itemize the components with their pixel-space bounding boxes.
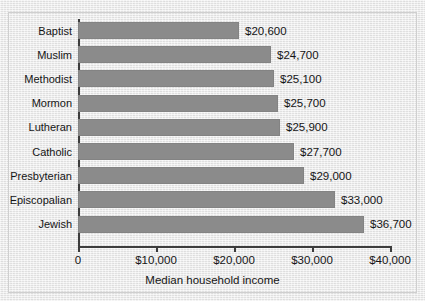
category-label: Catholic (32, 146, 72, 158)
bar-row: Episcopalian$33,000 (78, 191, 335, 208)
bar (78, 46, 271, 63)
x-axis-tick (312, 246, 314, 252)
chart-figure: Baptist$20,600Muslim$24,700Methodist$25,… (0, 0, 425, 301)
bar-value-label: $33,000 (341, 194, 383, 206)
bar-value-label: $24,700 (277, 49, 319, 61)
bar-row: Methodist$25,100 (78, 70, 274, 87)
x-axis-tick-label: $30,000 (291, 254, 333, 267)
x-axis-tick-label: $20,000 (213, 254, 255, 267)
bar (78, 216, 364, 233)
bar-value-label: $36,700 (370, 218, 412, 230)
x-axis-tick (156, 246, 158, 252)
bar-value-label: $29,000 (310, 170, 352, 182)
x-axis-tick (234, 246, 236, 252)
bar-value-label: $20,600 (245, 25, 287, 37)
bar (78, 70, 274, 87)
x-axis-tick-label: $40,000 (369, 254, 411, 267)
x-axis-tick-label: 0 (75, 254, 81, 267)
bar-row: Presbyterian$29,000 (78, 167, 304, 184)
bar (78, 191, 335, 208)
category-label: Episcopalian (10, 194, 72, 206)
category-label: Mormon (32, 97, 72, 109)
x-axis-tick-label: $10,000 (135, 254, 177, 267)
bar-value-label: $25,900 (286, 121, 328, 133)
clipped-top-caption (10, 0, 270, 5)
bar-row: Baptist$20,600 (78, 22, 239, 39)
bar (78, 143, 294, 160)
bar (78, 167, 304, 184)
bar-value-label: $25,700 (284, 97, 326, 109)
bar-value-label: $27,700 (300, 146, 342, 158)
bar-row: Jewish$36,700 (78, 216, 364, 233)
bar (78, 95, 278, 112)
x-axis-title: Median household income (0, 274, 425, 287)
category-label: Muslim (37, 49, 72, 61)
bar-row: Mormon$25,700 (78, 95, 278, 112)
category-label: Baptist (38, 25, 72, 37)
category-label: Methodist (24, 73, 72, 85)
bar-row: Catholic$27,700 (78, 143, 294, 160)
bar-row: Lutheran$25,900 (78, 119, 280, 136)
bar-row: Muslim$24,700 (78, 46, 271, 63)
bar-value-label: $25,100 (280, 73, 322, 85)
category-label: Jewish (38, 218, 72, 230)
category-label: Lutheran (29, 121, 72, 133)
x-axis-tick (78, 246, 80, 252)
plot-area: Baptist$20,600Muslim$24,700Methodist$25,… (78, 20, 390, 242)
bar (78, 22, 239, 39)
category-label: Presbyterian (10, 170, 72, 182)
x-axis-tick (390, 246, 392, 252)
bar (78, 119, 280, 136)
